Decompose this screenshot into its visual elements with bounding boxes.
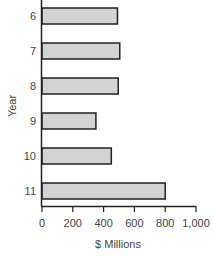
bar-year-7 <box>42 43 120 59</box>
x-tick-label: 1,000 <box>182 217 210 229</box>
x-tick-label: 800 <box>156 217 174 229</box>
x-tick-label: 200 <box>64 217 82 229</box>
x-axis-title: $ Millions <box>95 238 141 250</box>
y-tick-label: 9 <box>30 115 36 127</box>
bar-year-11 <box>42 183 165 199</box>
bars <box>42 8 165 199</box>
y-tick-label: 8 <box>30 80 36 92</box>
bar-year-10 <box>42 148 111 164</box>
x-tick-label: 400 <box>94 217 112 229</box>
horizontal-bar-chart: 67891011 02004006008001,000 Year $ Milli… <box>0 0 213 256</box>
y-axis-title: Year <box>6 95 18 118</box>
y-tick-label: 10 <box>24 150 36 162</box>
x-tick-label: 600 <box>125 217 143 229</box>
bar-year-8 <box>42 78 118 94</box>
y-tick-label: 6 <box>30 10 36 22</box>
y-tick-label: 7 <box>30 45 36 57</box>
y-tick-labels: 67891011 <box>24 10 36 197</box>
x-tick-label: 0 <box>39 217 45 229</box>
x-ticks: 02004006008001,000 <box>39 206 210 229</box>
y-tick-label: 11 <box>25 185 36 197</box>
bar-year-9 <box>42 113 96 129</box>
bar-year-6 <box>42 8 117 24</box>
